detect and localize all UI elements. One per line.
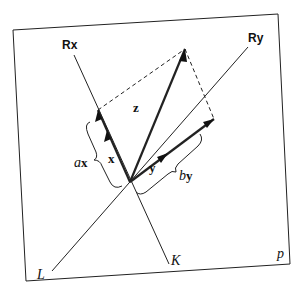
coef-a-vec: x <box>81 155 88 170</box>
coef-a: a <box>74 155 81 170</box>
axis-ry-label: Ry <box>248 31 264 45</box>
coef-b: b <box>179 168 186 183</box>
axis-end-l-label: L <box>36 267 45 282</box>
brace-ax-label: ax <box>74 155 88 170</box>
coef-b-vec: y <box>186 168 193 183</box>
axis-rx-label: Rx <box>62 38 78 52</box>
dashed-line-by-to-z <box>185 49 214 119</box>
vector-x <box>98 110 130 182</box>
plane-p <box>13 14 290 281</box>
vector-z-label: z <box>133 100 139 115</box>
vector-x-label: x <box>108 151 115 166</box>
plane-p-label: p <box>276 246 284 261</box>
vector-plane-diagram: Rx Ry z x y ax by L K p <box>0 0 306 290</box>
brace-by-label: by <box>179 168 193 183</box>
axis-end-k-label: K <box>170 253 181 268</box>
vector-y-label: y <box>149 160 156 175</box>
